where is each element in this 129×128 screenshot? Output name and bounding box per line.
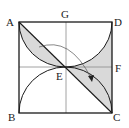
label-f: F: [115, 62, 121, 74]
label-d: D: [114, 16, 122, 28]
label-e: E: [56, 70, 63, 82]
label-b: B: [8, 111, 15, 123]
label-a: A: [6, 16, 14, 28]
shaded-region-upper-right: [66, 22, 112, 67]
geometry-diagram: A D B C G F E: [0, 0, 129, 128]
label-g: G: [61, 8, 69, 20]
label-c: C: [113, 111, 120, 123]
